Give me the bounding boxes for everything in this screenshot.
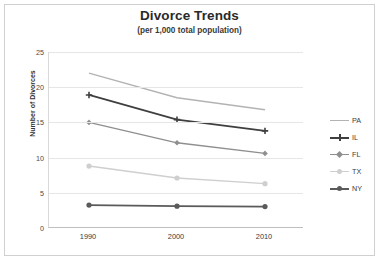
series-line-pa	[89, 73, 265, 110]
legend-marker-icon	[339, 134, 341, 141]
legend-swatch-icon	[330, 167, 349, 177]
y-axis-tick-label: 25	[22, 48, 44, 57]
gridline	[49, 52, 303, 53]
legend-item-il[interactable]: IL	[330, 129, 376, 146]
data-point-marker	[262, 151, 268, 157]
legend-swatch-icon	[330, 150, 349, 160]
y-axis-tick-labels: 2520151050	[20, 52, 44, 228]
gridline	[49, 122, 303, 123]
data-point-marker	[86, 92, 92, 98]
legend-marker-icon	[337, 186, 342, 191]
data-point-marker	[86, 163, 91, 168]
gridline	[49, 87, 303, 88]
data-point-marker	[174, 140, 180, 146]
data-point-marker	[262, 181, 267, 186]
series-line-il	[89, 95, 265, 131]
y-axis-tick-label: 15	[22, 118, 44, 127]
x-axis-tick-labels: 199020002010	[48, 232, 303, 248]
series-line-tx	[89, 166, 265, 184]
chart-screenshot: Divorce Trends (per 1,000 total populati…	[0, 0, 379, 263]
legend-label: NY	[352, 184, 362, 193]
legend-line-icon	[330, 120, 349, 122]
legend-item-tx[interactable]: TX	[330, 163, 376, 180]
data-point-marker	[262, 128, 268, 134]
y-axis-tick-label: 5	[22, 188, 44, 197]
legend-item-ny[interactable]: NY	[330, 180, 376, 197]
legend-item-pa[interactable]: PA	[330, 112, 376, 129]
plot-area	[48, 52, 303, 228]
y-axis-tick-label: 20	[22, 83, 44, 92]
data-point-marker	[86, 203, 91, 208]
legend-swatch-icon	[330, 184, 349, 194]
chart-legend: PAILFLTXNY	[330, 112, 376, 197]
data-point-marker	[174, 204, 179, 209]
y-axis-tick-label: 10	[22, 153, 44, 162]
x-axis-tick-label: 2010	[239, 232, 289, 241]
data-point-marker	[174, 175, 179, 180]
plot-wrapper: Number of Divorces 2520151050 1990200020…	[0, 0, 379, 263]
legend-marker-icon	[336, 151, 343, 158]
legend-swatch-icon	[330, 116, 349, 126]
legend-label: TX	[352, 167, 361, 176]
legend-label: IL	[352, 133, 358, 142]
gridline	[49, 158, 303, 159]
legend-marker-icon	[337, 169, 342, 174]
gridline	[49, 193, 303, 194]
x-axis-tick-label: 1990	[63, 232, 113, 241]
legend-label: FL	[352, 150, 360, 159]
legend-item-fl[interactable]: FL	[330, 146, 376, 163]
y-axis-tick-label: 0	[22, 224, 44, 233]
legend-swatch-icon	[330, 133, 349, 143]
data-point-marker	[262, 204, 267, 209]
x-axis-tick-label: 2000	[151, 232, 201, 241]
series-layer	[49, 52, 304, 228]
legend-label: PA	[352, 116, 361, 125]
